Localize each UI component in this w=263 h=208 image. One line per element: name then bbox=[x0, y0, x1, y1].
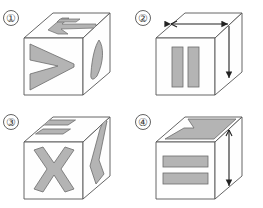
horizontal-bar-upper bbox=[163, 156, 208, 167]
cube-four-front-face bbox=[156, 142, 215, 199]
cube-one bbox=[24, 13, 110, 95]
panel-cube-three: ③ bbox=[0, 104, 131, 208]
figure-root: ① bbox=[0, 0, 263, 208]
cube-two-front-face bbox=[156, 38, 215, 95]
cube-four bbox=[156, 117, 242, 199]
vertical-bar-left bbox=[172, 47, 183, 87]
panel-label-three: ③ bbox=[6, 116, 16, 128]
panel-label-two: ② bbox=[138, 12, 148, 24]
panel-label-one: ① bbox=[6, 12, 16, 24]
cube-two bbox=[156, 13, 242, 95]
cube-three bbox=[24, 117, 110, 199]
panel-cube-one: ① bbox=[0, 0, 131, 104]
panel-cube-two: ② bbox=[132, 0, 263, 104]
panel-cube-four: ④ bbox=[132, 104, 263, 208]
panel-label-four: ④ bbox=[138, 116, 148, 128]
vertical-bar-right bbox=[188, 47, 199, 87]
horizontal-bar-lower bbox=[163, 173, 208, 184]
